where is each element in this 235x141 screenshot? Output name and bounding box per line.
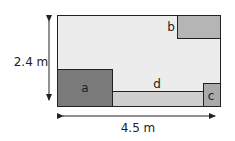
label-c: c — [208, 89, 215, 103]
width-label: 4.5 m — [121, 121, 156, 135]
region-b — [178, 16, 221, 39]
label-d: d — [153, 77, 161, 91]
label-b: b — [167, 20, 175, 34]
region-d — [113, 92, 204, 107]
floor-plan-diagram: a b c d 2.4 m 4.5 m — [0, 0, 235, 141]
label-a: a — [81, 81, 88, 95]
height-label: 2.4 m — [14, 55, 49, 69]
